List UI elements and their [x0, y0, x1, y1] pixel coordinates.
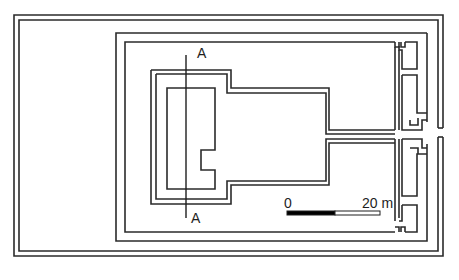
gate-north [395, 42, 427, 130]
section-label-bottom: A [191, 211, 200, 225]
section-label-top: A [197, 46, 206, 60]
gate-south [395, 139, 427, 232]
temple-plan [0, 0, 459, 280]
scale-bar [287, 211, 380, 215]
scale-end-label: 20 m [362, 196, 393, 210]
scale-start-label: 0 [284, 196, 292, 210]
outer-enclosure-wall [14, 15, 443, 256]
sanctuary [167, 88, 215, 189]
temple-wall [151, 70, 395, 204]
